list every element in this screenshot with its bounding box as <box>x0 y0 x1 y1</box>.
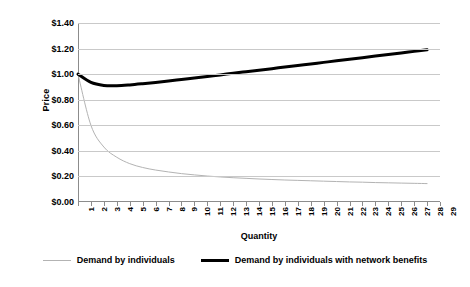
legend-line-icon <box>201 259 229 262</box>
x-axis-tick-label: 1 <box>88 207 96 227</box>
x-axis-tick-mark <box>272 202 273 206</box>
gridline <box>78 125 440 126</box>
x-axis-tick-label: 24 <box>385 207 393 227</box>
x-axis-tick-label: 27 <box>424 207 432 227</box>
y-axis-tick-label: $1.20 <box>22 44 74 54</box>
x-axis-tick-label: 11 <box>217 207 225 227</box>
x-axis-tick-label: 6 <box>153 207 161 227</box>
legend-item[interactable]: Demand by individuals with network benef… <box>201 255 428 265</box>
gridline <box>78 176 440 177</box>
x-axis-tick-mark <box>375 202 376 206</box>
x-axis-tick-label: 29 <box>450 207 458 227</box>
x-axis-tick-mark <box>388 202 389 206</box>
x-axis-tick-mark <box>427 202 428 206</box>
x-axis-tick-mark <box>220 202 221 206</box>
x-axis-tick-label: 7 <box>166 207 174 227</box>
x-axis-tick-mark <box>104 202 105 206</box>
legend-item[interactable]: Demand by individuals <box>43 255 175 265</box>
x-axis-tick-label: 4 <box>127 207 135 227</box>
x-axis-tick-mark <box>156 202 157 206</box>
x-axis-tick-mark <box>130 202 131 206</box>
legend-label: Demand by individuals <box>77 255 175 265</box>
x-axis-tick-label: 5 <box>140 207 148 227</box>
x-axis-tick-label: 12 <box>230 207 238 227</box>
x-axis-tick-label: 13 <box>243 207 251 227</box>
x-axis-tick-label: 28 <box>437 207 445 227</box>
x-axis-tick-label: 19 <box>321 207 329 227</box>
y-axis-tick-label: $0.60 <box>22 120 74 130</box>
x-axis-tick-label: 3 <box>114 207 122 227</box>
x-axis-tick-mark <box>143 202 144 206</box>
x-axis-tick-mark <box>169 202 170 206</box>
y-axis-tick-label: $1.00 <box>22 69 74 79</box>
x-axis-tick-mark <box>311 202 312 206</box>
x-axis-tick-mark <box>78 202 79 206</box>
y-axis-tick-label: $0.20 <box>22 171 74 181</box>
x-axis-tick-mark <box>285 202 286 206</box>
x-axis-tick-mark <box>440 202 441 206</box>
x-axis-tick-label: 20 <box>334 207 342 227</box>
x-axis-tick-mark <box>194 202 195 206</box>
x-axis-tick-mark <box>233 202 234 206</box>
x-axis-tick-label: 14 <box>256 207 264 227</box>
x-axis-tick-label: 25 <box>398 207 406 227</box>
chart-legend: Demand by individualsDemand by individua… <box>0 255 470 265</box>
x-axis-tick-label: 8 <box>179 207 187 227</box>
x-axis-tick-label: 18 <box>308 207 316 227</box>
series-line <box>78 50 427 86</box>
gridline <box>78 100 440 101</box>
legend-label: Demand by individuals with network benef… <box>235 255 428 265</box>
chart-container: Price $0.00$0.20$0.40$0.60$0.80$1.00$1.2… <box>0 0 470 287</box>
x-axis-tick-label: 21 <box>347 207 355 227</box>
x-axis-tick-mark <box>350 202 351 206</box>
series-line <box>78 74 427 183</box>
gridline <box>78 49 440 50</box>
x-axis-tick-label: 23 <box>372 207 380 227</box>
x-axis-tick-label: 2 <box>101 207 109 227</box>
x-axis-tick-mark <box>117 202 118 206</box>
x-axis-tick-mark <box>362 202 363 206</box>
x-axis-tick-mark <box>337 202 338 206</box>
x-axis-tick-label: 17 <box>295 207 303 227</box>
y-axis-tick-label: $1.40 <box>22 18 74 28</box>
x-axis-tick-mark <box>401 202 402 206</box>
plot-area <box>78 23 440 202</box>
x-axis-tick-mark <box>181 202 182 206</box>
x-axis-tick-mark <box>259 202 260 206</box>
x-axis-tick-mark <box>246 202 247 206</box>
legend-line-icon <box>43 260 71 261</box>
x-axis-tick-labels: 1234567891011121314151617181920212223242… <box>78 207 440 229</box>
x-axis-tick-label: 22 <box>360 207 368 227</box>
x-axis-tick-mark <box>91 202 92 206</box>
y-axis-tick-label: $0.40 <box>22 146 74 156</box>
gridline <box>78 151 440 152</box>
x-axis-tick-label: 16 <box>282 207 290 227</box>
y-axis-tick-label: $0.80 <box>22 95 74 105</box>
x-axis-tick-mark <box>414 202 415 206</box>
gridline <box>78 23 440 24</box>
x-axis-tick-label: 10 <box>204 207 212 227</box>
y-axis-tick-labels: $0.00$0.20$0.40$0.60$0.80$1.00$1.20$1.40 <box>22 23 74 202</box>
gridline <box>78 74 440 75</box>
x-axis-tick-label: 15 <box>269 207 277 227</box>
y-axis-tick-label: $0.00 <box>22 197 74 207</box>
x-axis-title: Quantity <box>78 231 440 241</box>
x-axis-tick-label: 26 <box>411 207 419 227</box>
x-axis-tick-label: 9 <box>191 207 199 227</box>
x-axis-tick-mark <box>298 202 299 206</box>
x-axis-tick-mark <box>324 202 325 206</box>
x-axis-tick-mark <box>207 202 208 206</box>
